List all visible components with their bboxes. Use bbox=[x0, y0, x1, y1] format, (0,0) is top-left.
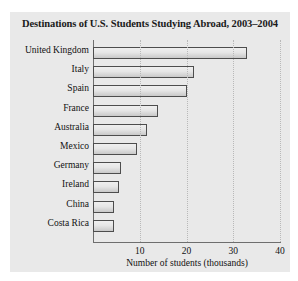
x-axis-line bbox=[93, 242, 281, 243]
category-label: China bbox=[66, 199, 89, 209]
x-tick-label: 10 bbox=[125, 246, 155, 256]
category-label: United Kingdom bbox=[25, 45, 89, 55]
x-tick-label: 20 bbox=[172, 246, 202, 256]
category-label: Ireland bbox=[62, 179, 89, 189]
category-label: Germany bbox=[54, 160, 89, 170]
chart-figure: Destinations of U.S. Students Studying A… bbox=[10, 12, 290, 272]
x-axis-label: Number of students (thousands) bbox=[93, 258, 281, 268]
category-label: France bbox=[63, 103, 89, 113]
category-label: Australia bbox=[54, 122, 89, 132]
gridline bbox=[233, 40, 234, 242]
category-label: Costa Rica bbox=[48, 218, 89, 228]
x-tick-label: 30 bbox=[218, 246, 248, 256]
category-label: Spain bbox=[67, 83, 89, 93]
category-label: Mexico bbox=[60, 141, 89, 151]
gridline bbox=[187, 40, 188, 242]
gridline bbox=[280, 40, 281, 242]
category-label: Italy bbox=[72, 64, 89, 74]
x-tick-label: 40 bbox=[265, 246, 295, 256]
gridline bbox=[140, 40, 141, 242]
chart-title: Destinations of U.S. Students Studying A… bbox=[10, 18, 290, 29]
